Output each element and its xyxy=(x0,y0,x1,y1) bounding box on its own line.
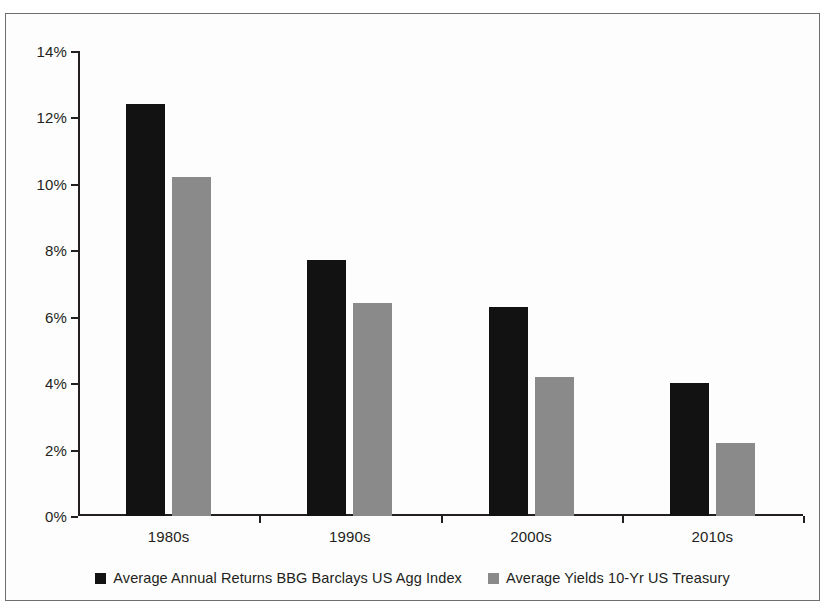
chart-legend: Average Annual Returns BBG Barclays US A… xyxy=(6,570,819,586)
y-axis-tick-label: 12% xyxy=(36,109,67,126)
y-axis-tick xyxy=(71,383,78,385)
bar xyxy=(353,303,392,516)
y-axis-tick-label: 14% xyxy=(36,43,67,60)
x-axis-tick xyxy=(259,516,261,523)
bar xyxy=(307,260,346,516)
legend-item[interactable]: Average Annual Returns BBG Barclays US A… xyxy=(95,570,462,586)
bar xyxy=(126,104,165,516)
y-axis-tick xyxy=(71,117,78,119)
y-axis-tick xyxy=(71,317,78,319)
legend-label: Average Annual Returns BBG Barclays US A… xyxy=(113,570,462,586)
legend-item[interactable]: Average Yields 10-Yr US Treasury xyxy=(488,570,730,586)
x-axis-tick-label: 2010s xyxy=(691,528,733,545)
y-axis-line xyxy=(78,51,80,516)
bar xyxy=(535,377,574,517)
y-axis-tick xyxy=(71,516,78,518)
bar xyxy=(489,307,528,516)
x-axis-tick xyxy=(803,516,805,523)
y-axis-tick-label: 6% xyxy=(45,308,67,325)
y-axis-tick xyxy=(71,250,78,252)
bar xyxy=(172,177,211,516)
y-axis-tick-label: 0% xyxy=(45,508,67,525)
legend-label: Average Yields 10-Yr US Treasury xyxy=(506,570,730,586)
x-axis-tick-label: 1990s xyxy=(329,528,371,545)
legend-swatch-icon xyxy=(95,573,106,584)
y-axis-tick xyxy=(71,450,78,452)
x-axis-tick xyxy=(441,516,443,523)
bar xyxy=(670,383,709,516)
y-axis-tick-label: 8% xyxy=(45,242,67,259)
x-axis-tick-label: 2000s xyxy=(510,528,552,545)
bar xyxy=(716,443,755,516)
x-axis-tick-label: 1980s xyxy=(148,528,190,545)
y-axis-tick-label: 2% xyxy=(45,441,67,458)
plot-area: 0%2%4%6%8%10%12%14% 1980s1990s2000s2010s xyxy=(78,51,803,516)
x-axis-tick xyxy=(622,516,624,523)
chart-figure: 0%2%4%6%8%10%12%14% 1980s1990s2000s2010s… xyxy=(5,13,820,601)
legend-swatch-icon xyxy=(488,573,499,584)
y-axis-tick-label: 10% xyxy=(36,175,67,192)
y-axis-tick xyxy=(71,51,78,53)
y-axis-tick-label: 4% xyxy=(45,375,67,392)
y-axis-tick xyxy=(71,184,78,186)
